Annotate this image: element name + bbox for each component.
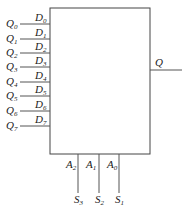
s-label: S2 (95, 193, 105, 207)
a-label: A0 (106, 158, 118, 172)
q-label: Q2 (6, 46, 18, 60)
q-label: Q6 (6, 104, 18, 118)
d-label: D4 (34, 69, 47, 83)
a-label: A2 (65, 158, 77, 172)
d-label: D0 (34, 11, 47, 25)
a-label: A1 (85, 158, 96, 172)
q-label: Q3 (6, 60, 18, 74)
mux-diagram: Q0 Q1 Q2 Q3 Q4 Q5 Q6 Q7 D0 D1 D2 D3 D4 D… (0, 0, 185, 210)
d-label: D3 (34, 54, 47, 68)
select-labels: S3 S2 S1 (74, 193, 124, 207)
d-label: D7 (34, 113, 47, 127)
s-label: S3 (74, 193, 84, 207)
mux-block (50, 8, 150, 154)
q-label: Q7 (6, 119, 18, 133)
pin-input-labels: D0 D1 D2 D3 D4 D5 D6 D7 (34, 11, 47, 127)
s-label: S1 (115, 193, 124, 207)
d-label: D2 (34, 40, 47, 54)
d-label: D1 (34, 26, 46, 40)
q-label: Q5 (6, 89, 18, 103)
external-input-labels: Q0 Q1 Q2 Q3 Q4 Q5 Q6 Q7 (6, 17, 18, 133)
address-labels: A2 A1 A0 (65, 158, 118, 172)
d-label: D5 (34, 83, 47, 97)
q-label: Q4 (6, 75, 18, 89)
output-label: Q (155, 56, 163, 68)
d-label: D6 (34, 98, 47, 112)
q-label: Q1 (6, 32, 17, 46)
q-label: Q0 (6, 17, 18, 31)
